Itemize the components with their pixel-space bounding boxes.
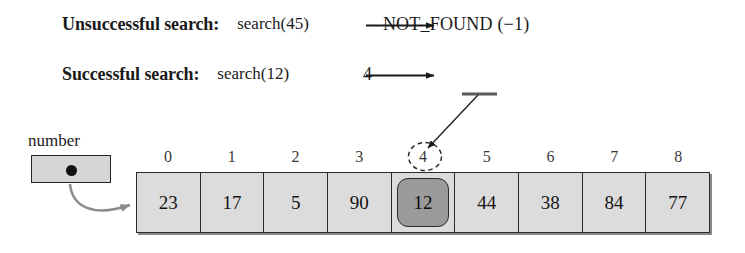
unsuccessful-search-row: Unsuccessful search: search(45) NOT_FOUN… xyxy=(62,12,529,36)
array-index-row: 0 1 2 3 4 5 6 7 8 xyxy=(136,146,710,168)
array-cell-value-2: 5 xyxy=(291,192,301,214)
array-cell-value-6: 38 xyxy=(541,192,560,214)
successful-search-row: Successful search: search(12) 4 xyxy=(62,62,372,86)
pointer-variable-box xyxy=(31,155,111,183)
result-leader-line xyxy=(428,95,478,148)
array-container: 23 17 5 90 12 44 38 84 77 xyxy=(136,172,710,233)
array-cell-value-5: 44 xyxy=(477,192,496,214)
array-cell-5: 44 xyxy=(455,173,519,232)
unsuccessful-search-result: NOT_FOUND (−1) xyxy=(383,14,529,35)
array-cell-value-3: 90 xyxy=(350,192,369,214)
array-cell-value-7: 84 xyxy=(605,192,624,214)
curved-pointer-arrow-icon xyxy=(70,184,130,210)
successful-search-call: search(12) xyxy=(217,64,289,84)
array-cell-value-4: 12 xyxy=(414,192,433,214)
pointer-dot-icon xyxy=(66,165,77,176)
array-index-2: 2 xyxy=(264,146,328,168)
array-index-1: 1 xyxy=(200,146,264,168)
array-index-8: 8 xyxy=(646,146,710,168)
array-cell-7: 84 xyxy=(583,173,647,232)
array-cell-6: 38 xyxy=(519,173,583,232)
array-index-3: 3 xyxy=(327,146,391,168)
array-cell-2: 5 xyxy=(264,173,328,232)
array-cell-1: 17 xyxy=(201,173,265,232)
pointer-variable-label: number xyxy=(28,131,80,151)
unsuccessful-search-call: search(45) xyxy=(237,14,309,34)
array-index-7: 7 xyxy=(582,146,646,168)
array-index-4: 4 xyxy=(391,146,455,168)
successful-search-result: 4 xyxy=(363,64,372,85)
array-cell-0: 23 xyxy=(137,173,201,232)
array-cell-value-8: 77 xyxy=(668,192,687,214)
array-index-6: 6 xyxy=(519,146,583,168)
array-cell-value-0: 23 xyxy=(159,192,178,214)
array-cell-3: 90 xyxy=(328,173,392,232)
array-cell-8: 77 xyxy=(646,173,709,232)
successful-search-label: Successful search: xyxy=(62,64,199,85)
linear-search-figure: Unsuccessful search: search(45) NOT_FOUN… xyxy=(0,0,745,253)
unsuccessful-search-label: Unsuccessful search: xyxy=(62,14,219,35)
array-index-0: 0 xyxy=(136,146,200,168)
array-cell-4: 12 xyxy=(392,173,456,232)
array-index-5: 5 xyxy=(455,146,519,168)
array-cell-value-1: 17 xyxy=(223,192,242,214)
